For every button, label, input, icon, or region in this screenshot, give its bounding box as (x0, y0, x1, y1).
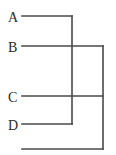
taxon-label-c: C (8, 91, 17, 105)
branch-lines (22, 16, 103, 149)
taxon-label-b: B (8, 41, 17, 55)
taxon-label-a: A (8, 11, 18, 25)
taxon-label-d: D (8, 119, 18, 133)
cladogram-figure: A B C D (0, 0, 116, 155)
